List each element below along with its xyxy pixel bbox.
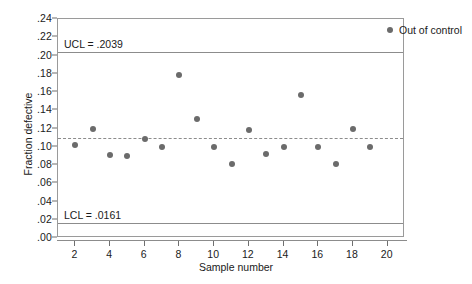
x-axis-tick-label: 12 [242,248,254,260]
x-axis-tick-mark [178,241,179,246]
x-axis-tick-mark [352,241,353,246]
data-point [142,136,148,142]
x-axis-tick-label: 8 [176,248,182,260]
upper-control-limit [58,52,403,53]
x-axis-tick-label: 2 [71,248,77,260]
data-point [315,144,321,150]
x-axis-tick-label: 4 [106,248,112,260]
y-axis-tick-label: .08 [37,158,52,170]
x-axis-title: Sample number [0,261,472,273]
x-axis-tick-mark [74,241,75,246]
y-axis-tick-label: .06 [37,176,52,188]
lower-control-limit-label: LCL = .0161 [62,209,123,221]
y-axis-tick-label: .20 [37,49,52,61]
data-point [176,72,182,78]
legend-marker-out-of-control [387,27,393,33]
y-axis-tick-label: .04 [37,195,52,207]
y-axis-tick-label: .18 [37,67,52,79]
data-point [90,126,96,132]
x-axis-tick-mark [213,241,214,246]
data-point [367,144,373,150]
x-axis-tick-label: 18 [346,248,358,260]
y-axis-tick-label: .14 [37,103,52,115]
x-axis-tick-mark [283,241,284,246]
y-axis-tick-label: .10 [37,140,52,152]
y-axis-tick-label: .12 [37,122,52,134]
data-point [263,151,269,157]
data-point [194,116,200,122]
y-axis-tick-label: .02 [37,213,52,225]
data-point [107,152,113,158]
y-axis-tick-label: .22 [37,30,52,42]
center-line [58,138,403,139]
data-point [72,142,78,148]
x-axis-tick-label: 16 [311,248,323,260]
x-axis-tick-mark [317,241,318,246]
x-axis-tick-mark [248,241,249,246]
x-axis-tick-label: 10 [207,248,219,260]
data-point [159,144,165,150]
upper-control-limit-label: UCL = .2039 [62,38,125,50]
data-point [124,153,130,159]
lower-control-limit [58,223,403,224]
x-axis-tick-mark [387,241,388,246]
legend: Out of control [387,24,462,36]
legend-label-out-of-control: Out of control [399,24,462,36]
data-point [211,144,217,150]
x-axis-tick-mark [109,241,110,246]
control-chart-figure: Fraction defective .24.22.20.18.16.14.12… [0,0,472,284]
x-axis-tick-mark [144,241,145,246]
y-axis-tick-label: .16 [37,85,52,97]
data-point [246,127,252,133]
data-point [350,126,356,132]
data-point [298,92,304,98]
y-axis-tick-label: .24 [37,12,52,24]
x-axis-tick-label: 14 [277,248,289,260]
data-point [281,144,287,150]
data-point [229,161,235,167]
x-axis-tick-label: 20 [381,248,393,260]
x-axis-tick-label: 6 [141,248,147,260]
data-point [333,161,339,167]
plot-area: UCL = .2039LCL = .0161 [57,18,404,237]
